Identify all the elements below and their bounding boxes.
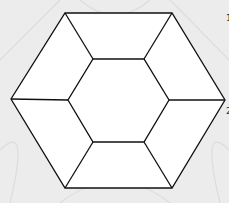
label-top-right: 1 <box>226 14 229 23</box>
label-mid-right: 2 <box>226 107 229 116</box>
hexagon-diagram <box>0 0 229 203</box>
